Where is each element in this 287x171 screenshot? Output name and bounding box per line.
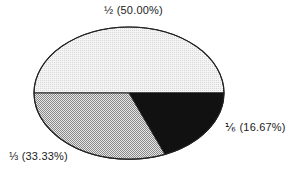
pie-chart: ½ (50.00%) ⅙ (16.67%) ⅓ (33.33%) xyxy=(0,0,287,171)
slice-label-half: ½ (50.00%) xyxy=(104,4,163,16)
slice-label-sixth: ⅙ (16.67%) xyxy=(225,121,286,134)
pie-chart-svg xyxy=(0,0,287,171)
slice-half xyxy=(34,27,224,93)
slice-label-third: ⅓ (33.33%) xyxy=(9,150,68,162)
